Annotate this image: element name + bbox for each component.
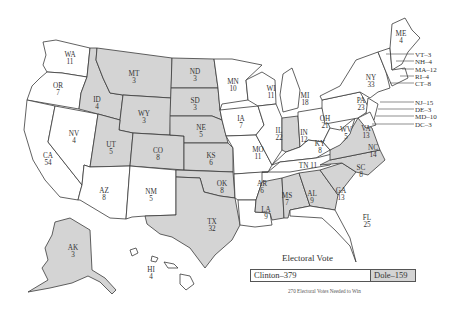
label-mn-votes: 10	[229, 85, 237, 93]
label-nh: NH–4	[415, 58, 433, 66]
label-in-votes: 12	[300, 136, 308, 144]
label-nc-votes: 14	[369, 151, 377, 159]
label-fl-votes: 25	[363, 221, 371, 229]
label-or-votes: 7	[56, 89, 60, 97]
label-sd-votes: 3	[193, 104, 197, 112]
label-dc: DC–3	[415, 121, 432, 129]
label-nv-votes: 4	[72, 137, 76, 145]
state-in[interactable]	[282, 116, 300, 152]
label-ky-votes: 8	[318, 147, 322, 155]
label-ok-votes: 8	[220, 187, 224, 195]
label-ca-votes: 54	[44, 159, 52, 167]
electoral-vote-bar: Clinton–379 Dole–159	[250, 269, 416, 282]
state-ny[interactable]	[320, 52, 390, 100]
label-ga-votes: 13	[337, 194, 345, 202]
label-co-votes: 8	[156, 154, 160, 162]
label-oh-votes: 21	[321, 122, 329, 130]
label-nd-votes: 3	[193, 75, 197, 83]
label-mt-votes: 3	[132, 77, 136, 85]
label-ks-votes: 6	[209, 159, 213, 167]
label-id-votes: 4	[95, 103, 99, 111]
footnote: 270 Electoral Votes Needed to Win	[288, 288, 361, 294]
label-wy-votes: 3	[142, 117, 146, 125]
state-mi[interactable]	[280, 68, 300, 112]
label-ms-votes: 7	[285, 199, 289, 207]
label-hi-votes: 4	[149, 273, 153, 281]
label-az-votes: 8	[102, 194, 106, 202]
label-ia-votes: 7	[239, 122, 243, 130]
label-il-votes: 22	[275, 134, 283, 142]
label-wa-votes: 11	[67, 58, 74, 66]
label-ny-votes: 33	[367, 81, 375, 89]
label-ak-votes: 3	[71, 251, 75, 259]
label-wi-votes: 11	[268, 92, 275, 100]
label-nm-votes: 5	[149, 195, 153, 203]
state-hi[interactable]	[130, 248, 194, 290]
label-tn: TN 11	[299, 162, 318, 170]
label-ne-votes: 5	[199, 131, 203, 139]
label-me-votes: 4	[399, 37, 403, 45]
label-la-votes: 9	[264, 213, 268, 221]
label-md: MD–10	[415, 113, 437, 121]
label-va-votes: 13	[362, 132, 370, 140]
label-al-votes: 9	[310, 197, 314, 205]
label-ct: CT–8	[415, 80, 431, 88]
label-pa-votes: 23	[357, 104, 365, 112]
label-tx-votes: 32	[208, 225, 216, 233]
label-sc-votes: 8	[359, 171, 363, 179]
legend-title: Electoral Vote	[282, 253, 333, 263]
label-ut-votes: 5	[109, 148, 113, 156]
label-wv-votes: 5	[344, 133, 348, 141]
label-mi-votes: 18	[301, 99, 309, 107]
us-electoral-map: WA11OR7CA54NV4ID4MT3WY3UT5AZ8CO8NM5ND3SD…	[0, 0, 462, 314]
label-ar-votes: 6	[260, 187, 264, 195]
dole-votes: Dole–159	[371, 270, 415, 281]
clinton-votes: Clinton–379	[251, 270, 371, 281]
label-mo-votes: 11	[255, 153, 262, 161]
